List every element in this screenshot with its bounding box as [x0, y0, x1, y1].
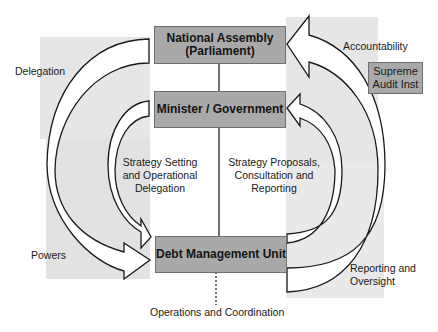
- reporting-oversight-label: Reporting and Oversight: [350, 262, 416, 288]
- minister-box: Minister / Government: [154, 91, 286, 128]
- strategy-proposals-line1: Strategy Proposals,: [226, 156, 322, 169]
- strategy-proposals-label: Strategy Proposals, Consultation and Rep…: [226, 156, 322, 195]
- operations-coordination-label: Operations and Coordination: [150, 306, 284, 319]
- delegation-label: Delegation: [15, 65, 65, 78]
- national-assembly-box: National Assembly (Parliament): [154, 26, 286, 64]
- reporting-oversight-line1: Reporting and: [350, 262, 416, 275]
- strategy-setting-line3: Delegation: [120, 182, 200, 195]
- strategy-proposals-line3: Reporting: [226, 182, 322, 195]
- parliament-label: (Parliament): [185, 45, 254, 58]
- strategy-setting-line2: and Operational: [120, 169, 200, 182]
- debt-management-unit-label: Debt Management Unit: [156, 248, 286, 261]
- supreme-audit-line2: Audit Inst: [373, 78, 419, 91]
- supreme-audit-box: Supreme Audit Inst: [368, 62, 423, 94]
- supreme-audit-line1: Supreme: [373, 65, 418, 78]
- debt-management-unit-box: Debt Management Unit: [155, 236, 287, 273]
- reporting-oversight-line2: Oversight: [350, 275, 416, 288]
- strategy-proposals-line2: Consultation and: [226, 169, 322, 182]
- minister-label: Minister / Government: [157, 103, 284, 116]
- powers-label: Powers: [31, 249, 66, 262]
- accountability-label: Accountability: [343, 40, 408, 53]
- strategy-setting-line1: Strategy Setting: [120, 156, 200, 169]
- strategy-setting-label: Strategy Setting and Operational Delegat…: [120, 156, 200, 195]
